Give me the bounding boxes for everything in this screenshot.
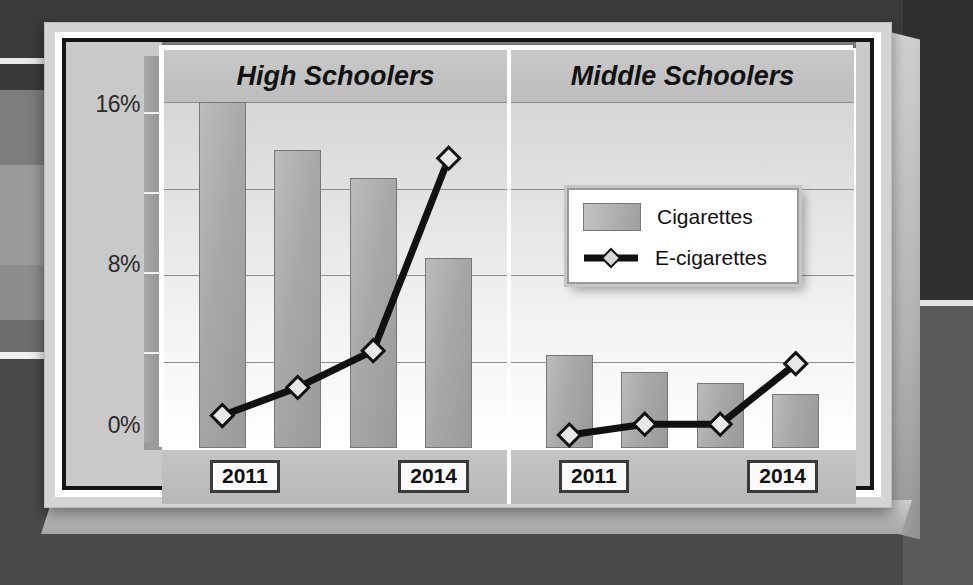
- grouped-bar-line-chart: 16% 8% 0%: [66, 42, 870, 486]
- wall-seg: [144, 352, 164, 354]
- chart-canvas: 16% 8% 0%: [62, 38, 874, 490]
- legend-label-e-cigarettes: E-cigarettes: [655, 246, 767, 270]
- frame-mat: 16% 8% 0%: [55, 32, 881, 497]
- line-path: [569, 364, 795, 435]
- y-tick-8: 8%: [108, 251, 140, 278]
- panel-middle-schoolers: Middle Schoolers Ciga: [507, 50, 854, 448]
- chart-legend: Cigarettes: [567, 188, 799, 284]
- y-tick-16: 16%: [95, 91, 140, 118]
- x-axis: 2011 2014 2011 2014: [162, 450, 856, 504]
- x-tick-2011: 2011: [559, 460, 629, 493]
- line-series-e-cigarettes: [164, 102, 507, 448]
- wall-seg: [144, 112, 164, 114]
- line-marker-swatch-icon: [583, 245, 639, 271]
- legend-row-cigarettes: Cigarettes: [569, 196, 797, 237]
- plot-high-schoolers: [164, 102, 507, 448]
- wall-seg: [144, 272, 164, 274]
- plot-area-wrapper: High Schoolers Middle Schoolers: [162, 48, 856, 450]
- data-point-marker: [634, 413, 656, 435]
- y-tick-0: 0%: [108, 412, 140, 439]
- data-point-marker: [558, 424, 580, 446]
- data-point-marker: [438, 147, 460, 169]
- legend-row-e-cigarettes: E-cigarettes: [569, 237, 797, 278]
- y-axis: 16% 8% 0%: [72, 42, 144, 486]
- x-tick-2014: 2014: [398, 460, 469, 493]
- panel-high-schoolers: High Schoolers: [164, 50, 507, 448]
- x-axis-middle-schoolers: 2011 2014: [507, 450, 856, 504]
- wall-seg: [144, 192, 164, 194]
- legend-label-cigarettes: Cigarettes: [657, 205, 753, 229]
- picture-frame: 16% 8% 0%: [44, 22, 892, 508]
- chart-3d-floor: [144, 442, 164, 450]
- framed-chart-poster: 16% 8% 0%: [44, 22, 920, 532]
- frame-bevel-right: [890, 32, 920, 539]
- panel-title-high-schoolers: High Schoolers: [164, 50, 507, 102]
- x-axis-panels: 2011 2014 2011 2014: [162, 450, 856, 504]
- bar-swatch-icon: [583, 203, 641, 231]
- data-point-marker: [362, 340, 384, 362]
- chart-3d-left-wall: [144, 56, 164, 442]
- x-axis-high-schoolers: 2011 2014: [162, 450, 507, 504]
- x-tick-2014: 2014: [747, 460, 818, 493]
- data-point-marker: [211, 405, 233, 427]
- plot-middle-schoolers: Cigarettes: [511, 102, 854, 448]
- panel-title-middle-schoolers: Middle Schoolers: [511, 50, 854, 102]
- panel-container: High Schoolers Middle Schoolers: [164, 50, 854, 448]
- line-path: [222, 158, 448, 415]
- data-point-marker: [287, 376, 309, 398]
- x-tick-2011: 2011: [210, 460, 280, 493]
